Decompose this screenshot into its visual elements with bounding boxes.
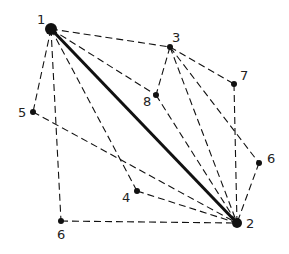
edge-3-2 [170, 47, 237, 223]
node-5 [30, 109, 36, 115]
edge-3-8 [156, 47, 170, 95]
node-label-4: 4 [122, 190, 130, 205]
edge-8-2 [156, 95, 237, 223]
node-6b [58, 218, 64, 224]
node-label-2: 2 [246, 216, 254, 231]
graph-diagram: 123456678 [0, 0, 289, 254]
edge-1-5 [33, 29, 51, 112]
edge-6b-2 [61, 221, 237, 223]
edge-1-3 [51, 29, 170, 47]
node-label-1: 1 [37, 12, 45, 27]
node-2 [232, 218, 242, 228]
edge-3-7 [170, 47, 234, 84]
node-label-7: 7 [240, 68, 248, 83]
node-1 [45, 23, 57, 35]
node-4 [134, 188, 140, 194]
node-7 [231, 81, 237, 87]
edge-1-4 [51, 29, 137, 191]
node-label-8: 8 [143, 94, 151, 109]
edge-6a-2 [237, 163, 259, 223]
node-label-6a: 6 [267, 151, 275, 166]
edge-1-2 [51, 29, 237, 223]
node-label-5: 5 [18, 105, 26, 120]
node-6a [256, 160, 262, 166]
edge-5-2 [33, 112, 237, 223]
node-label-6b: 6 [57, 227, 65, 242]
edge-3-6a [170, 47, 259, 163]
edge-7-2 [234, 84, 237, 223]
node-label-3: 3 [172, 30, 180, 45]
node-8 [153, 92, 159, 98]
